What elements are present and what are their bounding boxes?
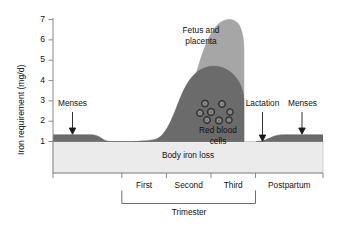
y-tick-label-3: 3: [33, 96, 45, 106]
y-tick-label-4: 4: [33, 76, 45, 86]
y-tick-label-2: 2: [33, 116, 45, 126]
label-body-iron-loss: Body iron loss: [140, 151, 236, 160]
area-postpartum-menses: [256, 135, 323, 142]
label-red-blood-cells-line2: cells: [182, 137, 254, 146]
label-menses-left: Menses: [50, 99, 95, 108]
y-tick-label-7: 7: [33, 15, 45, 25]
label-fetus-and-placenta-line1: Fetus and: [165, 26, 237, 35]
x-segment-label-third: Third: [211, 181, 256, 190]
label-red-blood-cells-line1: Red blood: [182, 126, 254, 135]
trimester-bracket: [122, 191, 256, 204]
x-axis-ticks: [53, 173, 323, 178]
x-axis-title-trimester: Trimester: [148, 208, 230, 217]
y-axis-title: Iron requirement (mg/d): [16, 65, 26, 155]
x-segment-label-postpartum: Postpartum: [256, 181, 324, 190]
iron-requirement-chart: Iron requirement (mg/d) 7 6 5 4 3 2 1 Fe…: [0, 0, 352, 245]
y-tick-label-6: 6: [33, 35, 45, 45]
x-segment-label-first: First: [122, 181, 167, 190]
x-segment-label-second: Second: [166, 181, 211, 190]
label-menses-right: Menses: [280, 99, 325, 108]
label-fetus-and-placenta-line2: placenta: [165, 37, 237, 46]
y-axis-ticks: [49, 20, 54, 142]
y-tick-label-1: 1: [33, 137, 45, 147]
y-tick-label-5: 5: [33, 55, 45, 65]
